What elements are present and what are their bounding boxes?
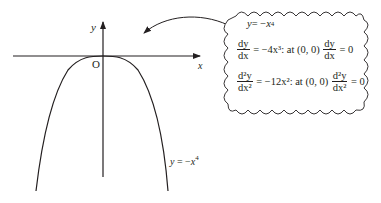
frac-den: dx² bbox=[333, 82, 347, 93]
curve-y-neg-x4 bbox=[36, 56, 168, 191]
cloud-line3-mid: = −12x²: at (0, 0) bbox=[254, 76, 331, 87]
dy-dx-fraction-2: dydx bbox=[323, 38, 336, 61]
frac-num: d²y bbox=[332, 70, 348, 82]
cloud-line-3: d²ydx² = −12x²: at (0, 0) d²ydx² = 0 bbox=[236, 70, 365, 93]
cloud-line1-eq: = − bbox=[252, 18, 266, 29]
origin-label: O bbox=[92, 59, 100, 70]
frac-num: dy bbox=[323, 38, 336, 50]
curve-label-eq: = − bbox=[174, 156, 190, 167]
pointer-arrow bbox=[144, 17, 228, 33]
cloud-line2-mid: = −4x³: at (0, 0) bbox=[251, 44, 323, 55]
frac-num: dy bbox=[237, 38, 250, 50]
x-axis-label: x bbox=[198, 61, 202, 71]
y-axis-label: y bbox=[91, 22, 96, 33]
cloud-line-2: dydx = −4x³: at (0, 0) dydx = 0 bbox=[236, 38, 353, 61]
frac-den: dx bbox=[324, 50, 335, 61]
dy-dx-fraction: dydx bbox=[237, 38, 250, 61]
cloud-line3-result: = 0 bbox=[348, 76, 364, 87]
curve-label-exp: 4 bbox=[195, 154, 199, 162]
cloud-line2-result: = 0 bbox=[337, 44, 353, 55]
curve-label: y = −x4 bbox=[170, 157, 199, 167]
frac-num: d²y bbox=[237, 70, 253, 82]
graph-canvas bbox=[0, 0, 381, 203]
d2y-dx2-fraction: d²ydx² bbox=[237, 70, 253, 93]
cloud-line-1: y = −x4 bbox=[247, 18, 274, 29]
frac-den: dx² bbox=[238, 82, 252, 93]
frac-den: dx bbox=[238, 50, 249, 61]
d2y-dx2-fraction-2: d²ydx² bbox=[332, 70, 348, 93]
cloud-outline bbox=[224, 12, 368, 114]
